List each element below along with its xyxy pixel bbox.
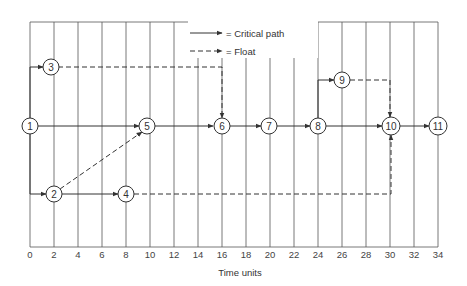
legend-critical-path-label: = Critical path: [226, 28, 284, 39]
x-tick-label: 32: [409, 249, 420, 260]
x-tick-label: 24: [313, 249, 324, 260]
node-3: 3: [43, 59, 59, 75]
svg-text:2: 2: [51, 189, 57, 200]
x-tick-label: 14: [193, 249, 204, 260]
x-tick-label: 18: [241, 249, 252, 260]
node-5: 5: [139, 118, 155, 134]
edge-3-6-float: [58, 67, 222, 118]
legend: = Critical path = Float: [188, 14, 318, 58]
edge-9-10-float: [350, 80, 390, 117]
x-tick-label: 20: [265, 249, 276, 260]
node-10: 10: [382, 117, 400, 135]
node-1: 1: [22, 118, 38, 134]
x-tick-label: 22: [289, 249, 300, 260]
diagram-canvas: 0246810121416182022242628303234 Time uni…: [0, 0, 467, 286]
svg-text:5: 5: [144, 121, 150, 132]
svg-text:9: 9: [339, 75, 345, 86]
svg-text:4: 4: [123, 189, 129, 200]
edge-1-2: [30, 134, 46, 194]
x-tick-label: 10: [145, 249, 156, 260]
x-tick-label: 30: [385, 249, 396, 260]
edge-8-9: [318, 80, 334, 118]
edge-2-5-float: [60, 132, 142, 189]
x-tick-label: 26: [337, 249, 348, 260]
node-8: 8: [310, 118, 326, 134]
svg-text:6: 6: [219, 121, 225, 132]
edge-4-10-float: [134, 135, 391, 194]
node-9: 9: [334, 72, 350, 88]
node-11: 11: [429, 117, 447, 135]
edge-1-3: [30, 67, 43, 118]
svg-text:8: 8: [315, 121, 321, 132]
x-tick-label: 6: [99, 249, 104, 260]
node-2: 2: [46, 186, 62, 202]
svg-text:3: 3: [48, 62, 54, 73]
legend-float-label: = Float: [226, 46, 256, 57]
svg-text:10: 10: [385, 121, 397, 132]
node-4: 4: [118, 186, 134, 202]
node-7: 7: [261, 118, 277, 134]
edges: [30, 67, 429, 194]
svg-text:7: 7: [266, 121, 272, 132]
x-tick-label: 16: [217, 249, 228, 260]
x-axis-ticks: 0246810121416182022242628303234: [27, 249, 443, 260]
x-tick-label: 28: [361, 249, 372, 260]
node-6: 6: [214, 118, 230, 134]
x-tick-label: 8: [123, 249, 128, 260]
svg-text:1: 1: [27, 121, 33, 132]
x-tick-label: 34: [433, 249, 444, 260]
x-tick-label: 2: [51, 249, 56, 260]
x-tick-label: 4: [75, 249, 80, 260]
svg-text:11: 11: [433, 121, 444, 132]
x-tick-label: 0: [27, 249, 32, 260]
x-axis-label: Time units: [218, 267, 262, 278]
network-diagram: 0246810121416182022242628303234 Time uni…: [0, 0, 467, 286]
x-tick-label: 12: [169, 249, 180, 260]
